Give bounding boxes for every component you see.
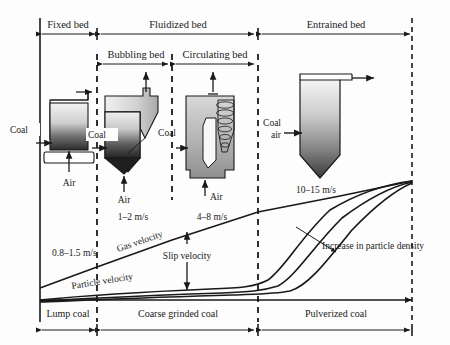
- entrained-bed-vessel: [300, 80, 340, 178]
- entrained-bed-coal-label: Coal: [263, 118, 281, 128]
- circulating-bed-velocity-label: 4–8 m/s: [197, 212, 228, 222]
- fixed-bed-vessel: [50, 103, 88, 150]
- entrained-bed-velocity-label: 10–15 m/s: [296, 185, 336, 195]
- subregime-band-bubbling: Bubbling bed: [103, 49, 168, 64]
- regime-band-entrained: Entrained bed: [262, 19, 410, 34]
- coal-type-label-coarse: Coarse grinded coal: [138, 308, 218, 319]
- coal-type-label-lump: Lump coal: [46, 308, 89, 319]
- regime-band-fixed: Fixed bed: [42, 19, 95, 34]
- regime-label-fluidized-bed: Fluidized bed: [149, 19, 207, 30]
- entrained-bed-air-label: air: [271, 130, 282, 140]
- fixed-bed-air-label: Air: [63, 178, 77, 188]
- subregime-label-circulating-bed: Circulating bed: [182, 49, 248, 60]
- circulating-bed-air-label: Air: [210, 192, 224, 202]
- bubbling-bed-air-label: Air: [118, 195, 132, 205]
- entrained-bed-reactor: Coal air 10–15 m/s: [263, 74, 374, 195]
- gas-velocity-label: Gas velocity: [115, 229, 164, 254]
- circulating-bed-reactor: Coal Air 4–8 m/s: [158, 72, 234, 222]
- diagram-svg: Fixed bed Fluidized bed Entrained bed Bu…: [0, 0, 450, 345]
- bubbling-bed-coal-label: Coal: [88, 130, 106, 140]
- bubbling-bed-velocity-label: 1–2 m/s: [118, 212, 149, 222]
- circulating-bed-standpipe: [203, 118, 216, 168]
- coal-type-label-pulverized: Pulverized coal: [305, 308, 367, 319]
- circulating-bed-coal-label: Coal: [158, 128, 176, 138]
- fixed-bed-reactor: Coal Air: [8, 92, 94, 188]
- regime-label-fixed-bed: Fixed bed: [47, 19, 89, 30]
- subregime-band-circulating: Circulating bed: [176, 49, 254, 64]
- regime-label-entrained-bed: Entrained bed: [307, 19, 366, 30]
- figure-canvas: Fixed bed Fluidized bed Entrained bed Bu…: [0, 0, 450, 345]
- fixed-bed-coal-label: Coal: [10, 125, 28, 135]
- regime-band-fluidized: Fluidized bed: [101, 19, 254, 34]
- slip-velocity-label: Slip velocity: [163, 251, 212, 261]
- subregime-label-bubbling-bed: Bubbling bed: [108, 49, 166, 60]
- fixed-bed-velocity-label: 0.8–1.5 m/s: [52, 248, 97, 258]
- particle-velocity-label: Particle velocity: [71, 271, 134, 291]
- bubbling-bed-cone: [105, 158, 140, 174]
- particle-density-label: Increase in particle density: [322, 241, 424, 251]
